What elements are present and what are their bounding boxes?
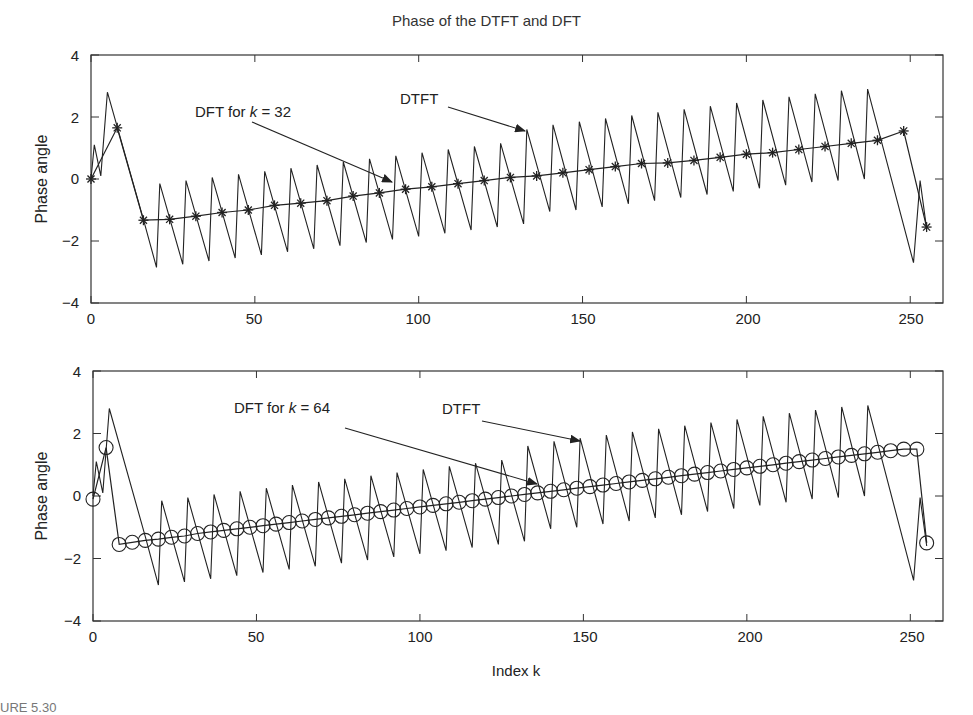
figure-caption-fragment: URE 5.30 [0, 700, 56, 715]
xtick-label: 150 [572, 628, 597, 645]
bottom-dtft-line [93, 405, 927, 585]
xtick-label: 50 [248, 628, 265, 645]
ytick-label: −4 [62, 294, 79, 311]
top-panel: Phase angle 4 2 0 −2 −4 0 50 100 150 200… [33, 47, 943, 327]
xtick-label: 200 [735, 310, 760, 327]
bottom-annotation-dtft: DTFT [442, 400, 480, 417]
xtick-label: 250 [899, 628, 924, 645]
xtick-label: 200 [737, 628, 762, 645]
ytick-label: −2 [64, 550, 81, 567]
bottom-dft-markers [86, 441, 934, 552]
bottom-annotation-dft-arrow [345, 428, 537, 484]
ytick-label: 2 [73, 425, 81, 442]
x-axis-label: Index k [492, 662, 541, 679]
ytick-label: 0 [73, 487, 81, 504]
ytick-label: −2 [62, 232, 79, 249]
xtick-label: 150 [570, 310, 595, 327]
xtick-label: 0 [87, 310, 95, 327]
top-annotation-dtft-arrow [448, 107, 525, 131]
ytick-label: 0 [71, 170, 79, 187]
ytick-label: 4 [73, 363, 81, 380]
xtick-label: 100 [407, 628, 432, 645]
ytick-label: 4 [71, 47, 79, 64]
top-axes-frame [91, 55, 943, 303]
top-annotation-dft-arrow [252, 122, 392, 182]
bottom-annotation-dft: DFT for k = 64 [234, 399, 330, 416]
top-ytick-labels: 4 2 0 −2 −4 [62, 47, 79, 311]
top-axis-ticks [91, 55, 943, 303]
xtick-label: 100 [405, 310, 430, 327]
top-xtick-labels: 0 50 100 150 200 250 [87, 310, 924, 327]
ytick-label: 2 [71, 109, 79, 126]
top-dft-markers [86, 123, 932, 232]
bottom-panel: Phase angle 4 2 0 −2 −4 0 50 100 150 200… [33, 363, 943, 679]
top-annotation-dft: DFT for k = 32 [195, 103, 291, 120]
bottom-annotation-dtft-arrow [482, 421, 580, 441]
ytick-label: −4 [64, 612, 81, 629]
xtick-label: 50 [246, 310, 263, 327]
bottom-xtick-labels: 0 50 100 150 200 250 [89, 628, 925, 645]
xtick-label: 0 [89, 628, 97, 645]
top-annotation-dtft: DTFT [400, 90, 438, 107]
xtick-label: 250 [898, 310, 923, 327]
top-ylabel: Phase angle [33, 134, 50, 223]
bottom-ylabel: Phase angle [33, 451, 50, 540]
bottom-ytick-labels: 4 2 0 −2 −4 [64, 363, 81, 629]
